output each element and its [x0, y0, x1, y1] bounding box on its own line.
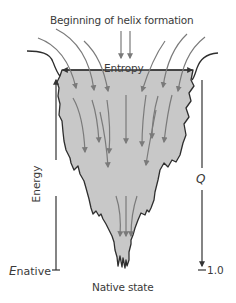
- q-max-value-label: 1.0: [207, 264, 224, 276]
- energy-landscape-funnel-diagram: [0, 0, 236, 303]
- q-axis-label: Q: [196, 172, 205, 186]
- funnel-rim-left: [27, 51, 60, 76]
- entropy-label: Entropy: [104, 62, 143, 74]
- e-native-subscript: native: [17, 265, 51, 278]
- funnel-rim-right: [192, 53, 218, 80]
- native-state-label: Native state: [92, 281, 154, 293]
- e-native-label: Enative: [9, 264, 51, 278]
- energy-axis-label: Energy: [30, 166, 42, 203]
- diagram-title: Beginning of helix formation: [50, 14, 194, 26]
- e-symbol: E: [9, 264, 17, 278]
